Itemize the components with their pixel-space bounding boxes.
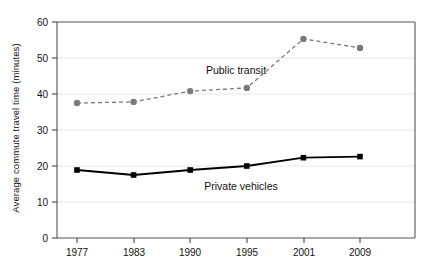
x-tick-label-1983: 1983 (123, 247, 146, 258)
y-tick-label-30: 30 (37, 125, 49, 136)
data-point[interactable] (357, 154, 363, 160)
y-tick-label-40: 40 (37, 89, 49, 100)
x-tick-label-2009: 2009 (349, 247, 372, 258)
data-point[interactable] (74, 100, 80, 106)
chart-container: Average commute travel time (minutes) (0, 0, 434, 273)
data-point[interactable] (357, 45, 363, 51)
data-point[interactable] (300, 36, 306, 42)
x-tick-label-2001: 2001 (293, 247, 316, 258)
data-point[interactable] (131, 172, 137, 178)
y-tick-label-0: 0 (42, 233, 48, 244)
y-tick-label-50: 50 (37, 53, 49, 64)
y-tick-label-10: 10 (37, 197, 49, 208)
x-tick-label-1990: 1990 (179, 247, 202, 258)
y-tick-marks (52, 22, 57, 238)
y-tick-label-60: 60 (37, 17, 49, 28)
x-tick-marks (77, 238, 360, 243)
data-point[interactable] (244, 163, 250, 169)
y-tick-label-20: 20 (37, 161, 49, 172)
data-point[interactable] (130, 99, 136, 105)
data-point[interactable] (187, 167, 193, 173)
chart-plot-area: 60 50 40 30 20 10 0 1977 1983 1990 1995 … (0, 0, 434, 273)
data-point[interactable] (74, 167, 80, 173)
series-label-public-transit: Public transit (206, 64, 266, 76)
x-tick-label-1995: 1995 (236, 247, 259, 258)
series-label-private-vehicles: Private vehicles (204, 180, 278, 192)
data-point[interactable] (187, 88, 193, 94)
x-tick-label-1977: 1977 (66, 247, 89, 258)
data-point[interactable] (244, 85, 250, 91)
data-point[interactable] (301, 155, 307, 161)
